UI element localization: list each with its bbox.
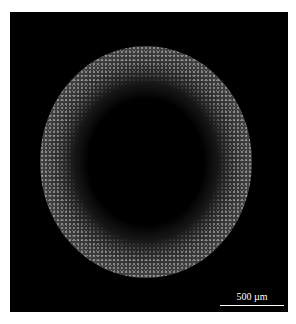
scale-bar: 500 µm (220, 291, 284, 306)
microscopy-image: 500 µm (10, 12, 288, 312)
scale-bar-line (220, 305, 284, 306)
scale-bar-label: 500 µm (220, 291, 284, 303)
tissue-ring (40, 46, 252, 278)
